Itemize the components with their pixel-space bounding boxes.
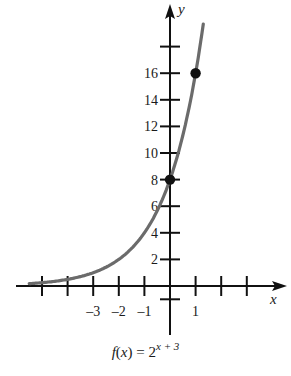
x-tick-label: –2	[111, 304, 126, 319]
tick-labels: –3–2–11246810121416	[85, 66, 199, 319]
x-tick-label: –1	[136, 304, 151, 319]
caption-base: f(x) = 2	[112, 344, 156, 360]
y-tick-label: 16	[144, 66, 158, 81]
y-tick-label: 12	[144, 119, 158, 134]
function-curve	[29, 24, 203, 284]
x-tick-label: 1	[192, 304, 199, 319]
caption-exponent: x + 3	[156, 340, 179, 352]
ticks	[42, 47, 247, 300]
y-axis-label: y	[176, 1, 185, 17]
function-caption: f(x) = 2x + 3	[0, 340, 291, 361]
data-point	[165, 174, 175, 184]
y-tick-label: 8	[151, 173, 158, 188]
y-tick-label: 4	[151, 226, 158, 241]
x-axis-label: x	[269, 291, 277, 307]
exponential-chart: –3–2–11246810121416 x y	[0, 0, 291, 376]
y-tick-label: 14	[144, 93, 158, 108]
x-tick-label: –3	[85, 304, 100, 319]
y-tick-label: 2	[151, 252, 158, 267]
y-tick-label: 10	[144, 146, 158, 161]
data-point	[190, 68, 200, 78]
